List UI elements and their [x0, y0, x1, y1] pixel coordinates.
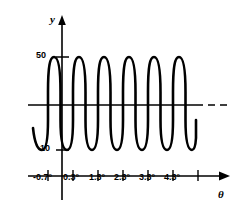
x-tick-label-1: 0.3° [63, 172, 79, 182]
x-tick-label-5: 4.3° [164, 172, 180, 182]
y-tick-label-10: 10 [40, 143, 50, 153]
x-tick-label-0: -0.7° [33, 172, 52, 182]
sine-curve [33, 57, 196, 150]
x-tick-label-3: 2.3° [114, 172, 130, 182]
chart-figure: y θ 50 10 -0.7° 0.3° 1.3° 2.3° 3.3° 4.3° [0, 0, 240, 212]
y-tick-label-50: 50 [36, 50, 46, 60]
y-axis-label: y [50, 13, 55, 25]
x-tick-label-4: 3.3° [139, 172, 155, 182]
x-axis-label: θ [218, 188, 224, 200]
x-tick-label-2: 1.3° [89, 172, 105, 182]
